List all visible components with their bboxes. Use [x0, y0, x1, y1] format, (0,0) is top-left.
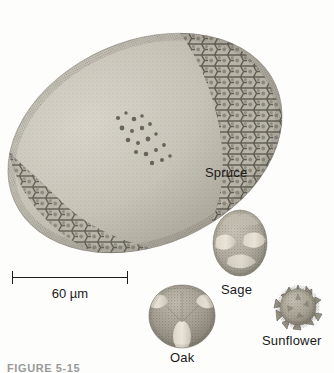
scale-bar-cap-right: [127, 271, 128, 284]
pollen-grain-figure: Spruce Sage Oak Sunflower 60 µm FIGURE 5…: [0, 0, 334, 373]
label-sunflower: Sunflower: [262, 334, 322, 347]
sage-pollen-grain: [210, 208, 272, 280]
scale-bar-label: 60 µm: [12, 286, 128, 301]
label-spruce: Spruce: [205, 166, 247, 179]
scale-bar-cap-left: [12, 271, 13, 284]
figure-caption: FIGURE 5-15: [7, 362, 80, 373]
scale-bar-rule: [12, 277, 128, 278]
oak-pollen-grain: [145, 282, 221, 352]
pollen-illustration-canvas: [0, 0, 334, 373]
spruce-pollen-grain: [0, 0, 317, 294]
label-sage: Sage: [221, 283, 252, 296]
label-oak: Oak: [170, 351, 194, 364]
sunflower-pollen-grain: [274, 285, 322, 331]
scale-bar: [12, 271, 128, 284]
